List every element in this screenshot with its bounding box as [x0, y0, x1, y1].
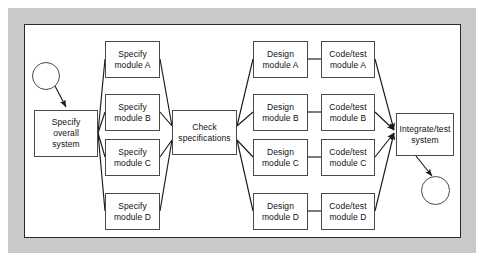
- node-check-specifications[interactable]: Check specifications: [172, 110, 237, 155]
- node-code-test-module-b[interactable]: Code/test module B: [321, 94, 375, 131]
- figure-root: Specify overall system Specify module A …: [0, 0, 484, 261]
- node-line-1: Check: [192, 122, 217, 133]
- end-node: [421, 176, 450, 205]
- node-line-1: Design: [267, 102, 294, 113]
- node-specify-module-a[interactable]: Specify module A: [105, 41, 160, 78]
- node-line-1: Code/test: [329, 147, 366, 158]
- node-code-test-module-d[interactable]: Code/test module D: [321, 193, 375, 230]
- edge-module-a-to-check-specs: [160, 59, 172, 126]
- node-design-module-c[interactable]: Design module C: [253, 139, 308, 176]
- node-line-2: module D: [262, 212, 299, 223]
- node-line-2: module C: [329, 158, 366, 169]
- node-line-2: module C: [114, 158, 151, 169]
- node-specify-overall-system[interactable]: Specify overall system: [34, 110, 98, 157]
- edge-start-to-specify-overall: [54, 84, 66, 107]
- node-line-1: Specify: [118, 201, 147, 212]
- node-specify-module-d[interactable]: Specify module D: [105, 193, 160, 230]
- node-line-2: module C: [262, 158, 299, 169]
- start-node: [32, 62, 60, 90]
- edge-module-d-to-check-specs: [160, 140, 172, 211]
- node-line-2: module B: [330, 113, 367, 124]
- node-line-2: module B: [262, 113, 299, 124]
- node-line-1: Specify: [118, 49, 147, 60]
- node-line-2: specifications: [178, 133, 230, 144]
- node-design-module-d[interactable]: Design module D: [253, 193, 308, 230]
- node-line-2: module A: [330, 60, 366, 71]
- node-integrate-test-system[interactable]: Integrate/test system: [396, 113, 454, 156]
- node-line-2: module D: [329, 212, 366, 223]
- node-design-module-a[interactable]: Design module A: [253, 41, 308, 78]
- node-line-2: module D: [114, 212, 151, 223]
- node-line-1: Integrate/test: [399, 124, 450, 135]
- node-line-1: Design: [267, 147, 294, 158]
- node-line-2: overall: [53, 128, 79, 139]
- node-specify-module-c[interactable]: Specify module C: [105, 139, 160, 176]
- node-line-1: Specify: [118, 102, 147, 113]
- node-code-test-module-c[interactable]: Code/test module C: [321, 139, 375, 176]
- node-line-1: Code/test: [329, 49, 366, 60]
- node-line-1: Code/test: [329, 201, 366, 212]
- node-line-2: system: [411, 135, 439, 146]
- node-line-1: Specify: [52, 117, 81, 128]
- node-line-3: system: [52, 139, 80, 150]
- node-code-test-module-a[interactable]: Code/test module A: [321, 41, 375, 78]
- node-line-1: Design: [267, 49, 294, 60]
- node-line-1: Specify: [118, 147, 147, 158]
- node-line-2: module A: [262, 60, 298, 71]
- node-line-1: Code/test: [329, 102, 366, 113]
- node-line-2: module B: [114, 113, 151, 124]
- edge-check-specs-to-design-a: [237, 59, 253, 126]
- node-line-1: Design: [267, 201, 294, 212]
- node-specify-module-b[interactable]: Specify module B: [105, 94, 160, 131]
- edge-code-a-to-integrate: [375, 59, 394, 130]
- edge-check-specs-to-design-d: [237, 140, 253, 211]
- node-design-module-b[interactable]: Design module B: [253, 94, 308, 131]
- node-line-2: module A: [114, 60, 150, 71]
- edge-integrate-to-end: [416, 156, 432, 176]
